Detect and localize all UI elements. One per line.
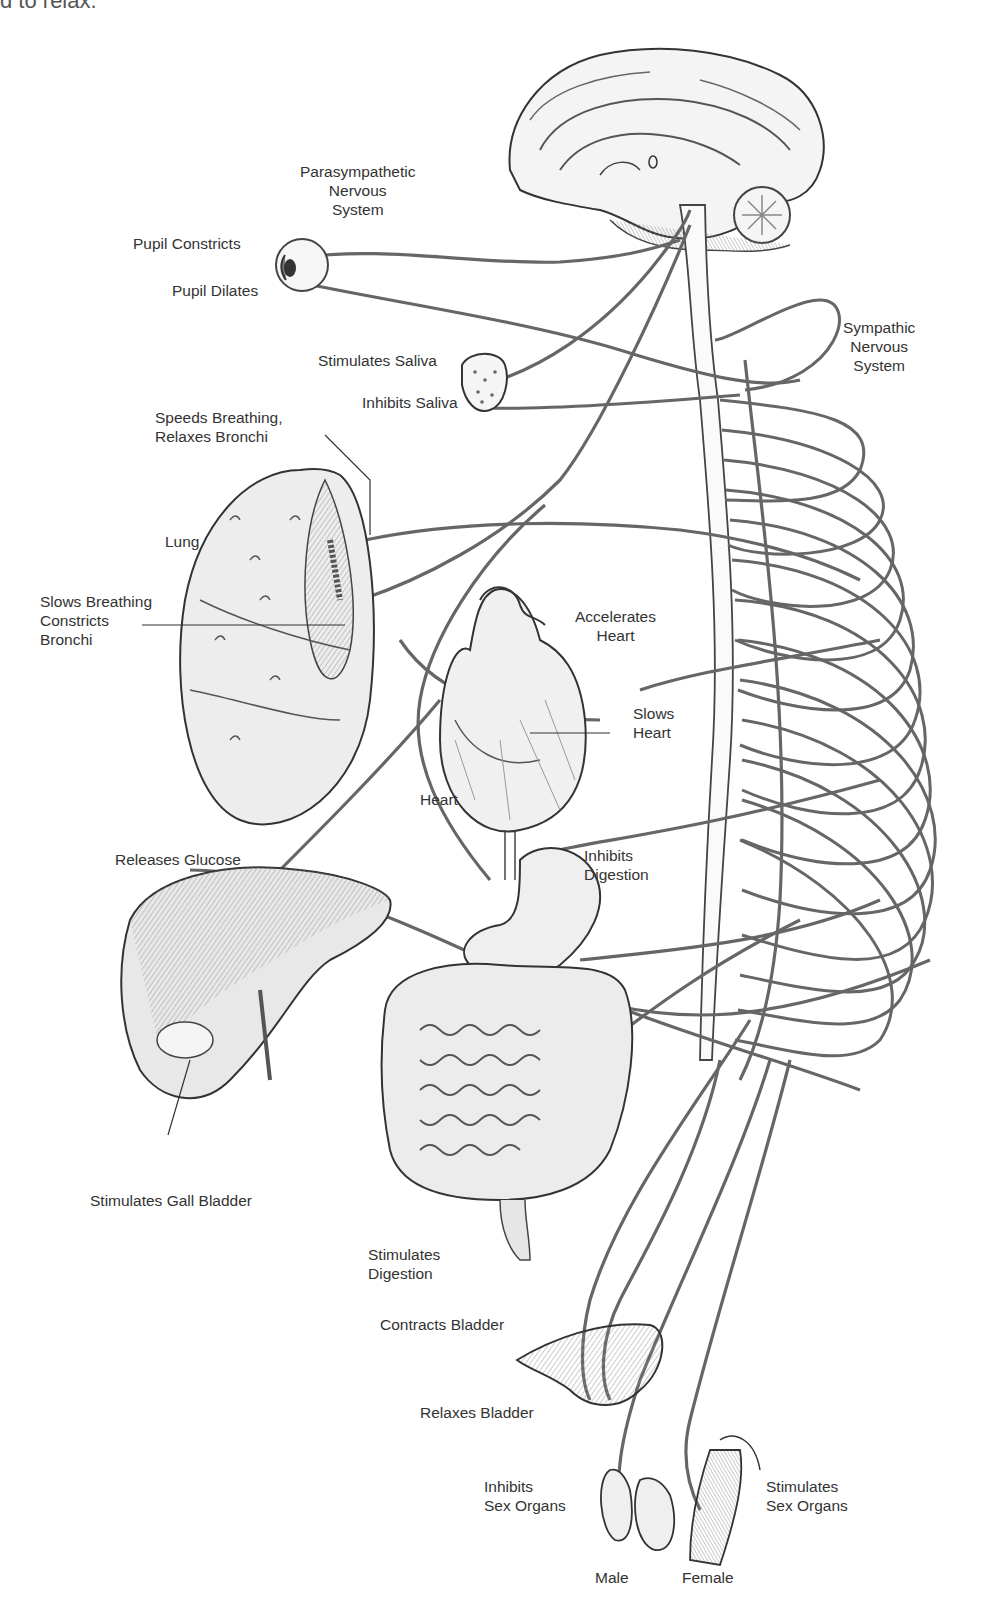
label-releases-glucose: Releases Glucose <box>115 850 241 869</box>
label-stimulates-digestion: Stimulates Digestion <box>368 1245 440 1283</box>
female-organs-illustration <box>690 1436 760 1565</box>
label-female: Female <box>682 1568 734 1587</box>
spinal-cord-illustration <box>680 205 733 1060</box>
male-organs-illustration <box>601 1470 674 1550</box>
label-line: Digestion <box>368 1264 440 1283</box>
label-inhibits-saliva: Inhibits Saliva <box>362 393 458 412</box>
bladder-illustration <box>517 1324 662 1405</box>
label-stimulates-gall-bladder: Stimulates Gall Bladder <box>90 1191 252 1210</box>
label-parasympathetic-system: Parasympathetic Nervous System <box>300 162 415 219</box>
sympathetic-chain <box>715 300 935 1080</box>
label-line: Heart <box>575 626 656 645</box>
eye-illustration <box>276 239 328 291</box>
label-pupil-constricts: Pupil Constricts <box>133 234 241 253</box>
label-pupil-dilates: Pupil Dilates <box>172 281 258 300</box>
label-line: Inhibits <box>584 846 649 865</box>
label-line: Slows <box>633 704 674 723</box>
salivary-gland-illustration <box>462 354 507 411</box>
label-line: Inhibits <box>484 1477 566 1496</box>
brain-illustration <box>510 49 824 251</box>
digestive-tract-illustration <box>382 830 633 1260</box>
liver-illustration <box>121 867 390 1098</box>
heart-illustration <box>440 587 586 831</box>
label-line: Speeds Breathing, <box>155 408 283 427</box>
label-sympathetic-system: Sympathic Nervous System <box>843 318 915 375</box>
label-slows-heart: Slows Heart <box>633 704 674 742</box>
label-line: Nervous <box>843 337 915 356</box>
label-stimulates-saliva: Stimulates Saliva <box>318 351 437 370</box>
label-speeds-breathing: Speeds Breathing, Relaxes Bronchi <box>155 408 283 446</box>
label-line: Digestion <box>584 865 649 884</box>
label-line: Sex Organs <box>484 1496 566 1515</box>
label-line: Heart <box>633 723 674 742</box>
label-line: System <box>300 200 415 219</box>
label-accelerates-heart: Accelerates Heart <box>575 607 656 645</box>
label-line: Stimulates <box>766 1477 848 1496</box>
label-inhibits-digestion: Inhibits Digestion <box>584 846 649 884</box>
label-line: Constricts <box>40 611 152 630</box>
lung-illustration <box>180 469 374 825</box>
label-line: Bronchi <box>40 630 152 649</box>
label-heart: Heart <box>420 790 458 809</box>
label-line: Relaxes Bronchi <box>155 427 283 446</box>
label-line: System <box>843 356 915 375</box>
label-inhibits-sex-organs: Inhibits Sex Organs <box>484 1477 566 1515</box>
label-line: Sympathic <box>843 318 915 337</box>
label-slows-breathing: Slows Breathing Constricts Bronchi <box>40 592 152 649</box>
label-lung: Lung <box>165 532 199 551</box>
label-line: Sex Organs <box>766 1496 848 1515</box>
label-line: Slows Breathing <box>40 592 152 611</box>
label-relaxes-bladder: Relaxes Bladder <box>420 1403 534 1422</box>
label-line: Nervous <box>300 181 415 200</box>
label-line: Stimulates <box>368 1245 440 1264</box>
label-stimulates-sex-organs: Stimulates Sex Organs <box>766 1477 848 1515</box>
label-line: Parasympathetic <box>300 162 415 181</box>
label-line: Accelerates <box>575 607 656 626</box>
label-male: Male <box>595 1568 629 1587</box>
label-contracts-bladder: Contracts Bladder <box>380 1315 504 1334</box>
